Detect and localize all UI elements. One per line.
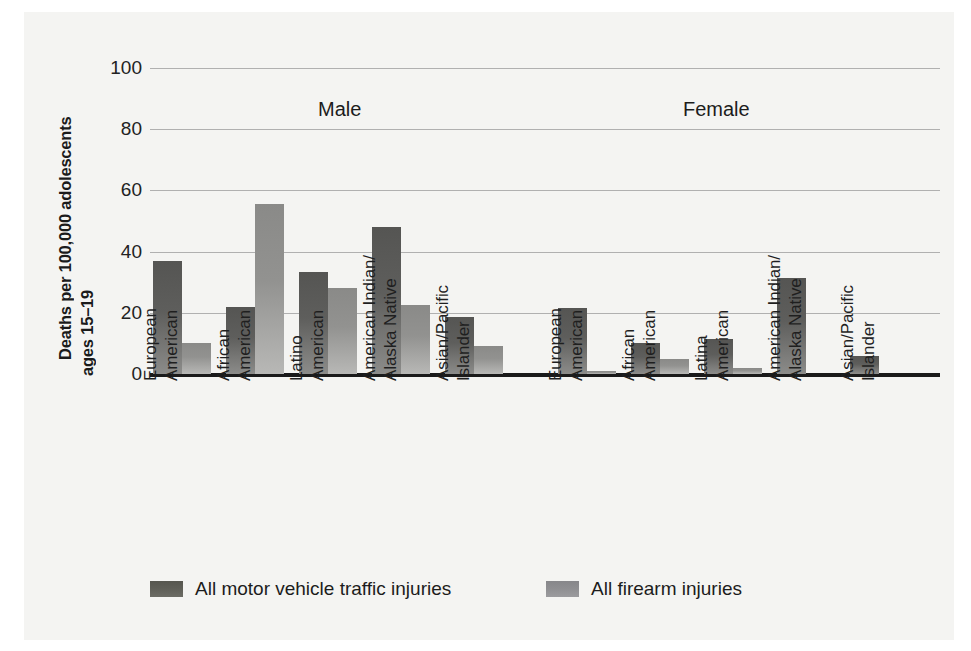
bar-female-latina-firearm	[733, 368, 762, 374]
bar-male-latino-firearm	[328, 288, 357, 374]
category-label-line2: Islander	[454, 321, 474, 381]
bar-male-asian-pacific-firearm	[474, 346, 503, 374]
y-axis-tick-labels: 100806040200	[96, 68, 142, 374]
y-axis-title: Deaths per 100,000 adolescents ages 15–1…	[42, 60, 102, 380]
panel-title-female: Female	[683, 98, 750, 121]
category-label-line1: African	[214, 329, 234, 381]
figure-canvas: Deaths per 100,000 adolescents ages 15–1…	[0, 0, 971, 651]
y-tick-60: 60	[100, 179, 142, 201]
x-axis-category-labels: EuropeanAmericanAfricanAmericanLatinoAme…	[150, 381, 940, 571]
y-tick-40: 40	[100, 241, 142, 263]
category-label-line2: American	[640, 310, 660, 381]
category-label-line2: Alaska Native	[786, 278, 806, 381]
bar-male-american-indian-firearm	[401, 305, 430, 374]
y-tick-100: 100	[100, 57, 142, 79]
category-label-line1: Latino	[287, 335, 307, 381]
bar-series-container	[150, 68, 940, 374]
legend-label-firearm: All firearm injuries	[591, 578, 742, 600]
legend-label-motor-vehicle: All motor vehicle traffic injuries	[195, 578, 451, 600]
category-label-line2: Alaska Native	[381, 278, 401, 381]
y-axis-title-line1: Deaths per 100,000 adolescents	[56, 60, 75, 360]
category-label-line1: European	[546, 308, 566, 381]
legend-item-firearm: All firearm injuries	[546, 578, 742, 600]
category-label-line1: American Indian/	[360, 255, 380, 381]
bar-male-african-firearm	[255, 204, 284, 374]
category-label-line2: Islander	[859, 321, 879, 381]
category-label-line1: Asian/Pacific	[433, 285, 453, 381]
legend-item-motor-vehicle: All motor vehicle traffic injuries	[150, 578, 451, 600]
category-label-line2: American	[308, 310, 328, 381]
bar-female-european-firearm	[587, 371, 616, 374]
category-label-line1: Latina	[692, 335, 712, 381]
category-label-line1: Asian/Pacific	[838, 285, 858, 381]
bar-male-european-firearm	[182, 343, 211, 374]
category-label-line1: African	[619, 329, 639, 381]
panel-title-male: Male	[318, 98, 361, 121]
category-label-line2: American	[162, 310, 182, 381]
category-label-line2: American	[235, 310, 255, 381]
category-label-line1: American Indian/	[765, 255, 785, 381]
y-axis-title-line2: ages 15–19	[78, 136, 97, 376]
legend-swatch-firearm-icon	[546, 581, 579, 597]
category-label-line1: European	[141, 308, 161, 381]
category-label-line2: American	[713, 310, 733, 381]
y-tick-20: 20	[100, 302, 142, 324]
y-tick-0: 0	[100, 363, 142, 385]
y-tick-80: 80	[100, 118, 142, 140]
category-label-line2: American	[567, 310, 587, 381]
legend-swatch-motor-vehicle-icon	[150, 581, 183, 597]
bar-female-african-firearm	[660, 359, 689, 374]
